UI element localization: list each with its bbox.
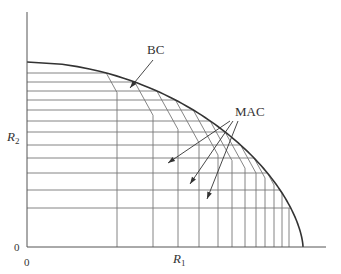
mac-diagonal-edge <box>241 145 256 173</box>
mac-arrow <box>207 121 238 199</box>
x-axis-label: R1 <box>172 251 185 268</box>
bc-capacity-curve <box>27 62 303 247</box>
mac-diagonal-edge <box>225 132 245 168</box>
y-origin-tick: 0 <box>14 241 20 253</box>
y-axis-label: R2 <box>6 129 19 146</box>
x-origin-tick: 0 <box>24 256 30 268</box>
mac-region-lines <box>27 73 291 247</box>
arrowhead-icon <box>190 177 196 184</box>
capacity-region-diagram: BC MAC R2 R1 0 0 <box>0 0 341 274</box>
axes <box>27 12 326 247</box>
arrowhead-icon <box>207 192 212 199</box>
mac-label: MAC <box>235 104 265 119</box>
bc-label: BC <box>147 42 164 57</box>
mac-arrow <box>190 121 233 184</box>
